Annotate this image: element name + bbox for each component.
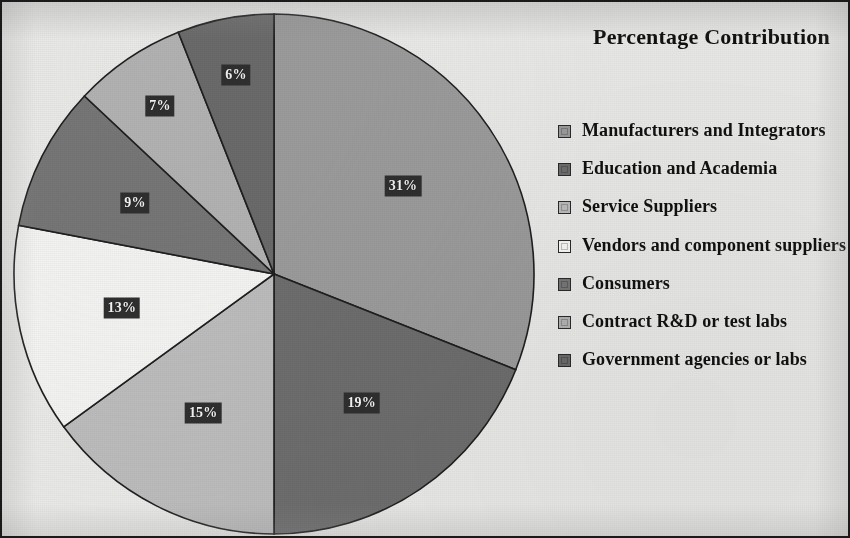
- legend-item[interactable]: Government agencies or labs: [558, 349, 846, 370]
- legend: Manufacturers and IntegratorsEducation a…: [558, 120, 846, 388]
- pie-slice-label: 13%: [103, 298, 140, 319]
- legend-swatch-icon: [558, 201, 571, 214]
- legend-item-label: Manufacturers and Integrators: [582, 120, 826, 141]
- pie-slices-group: [14, 14, 534, 534]
- pie-slice-label: 7%: [145, 96, 174, 117]
- legend-item-label: Contract R&D or test labs: [582, 311, 787, 332]
- legend-swatch-icon: [558, 278, 571, 291]
- pie-chart-svg: [2, 2, 547, 536]
- pie-slice-label: 6%: [221, 64, 250, 85]
- legend-swatch-icon: [558, 316, 571, 329]
- pie-slice-label: 31%: [385, 176, 422, 197]
- legend-swatch-icon: [558, 125, 571, 138]
- pie-slice-label: 15%: [185, 403, 222, 424]
- legend-item-label: Government agencies or labs: [582, 349, 807, 370]
- chart-title: Percentage Contribution: [593, 24, 830, 50]
- legend-item[interactable]: Vendors and component suppliers: [558, 235, 846, 256]
- legend-item[interactable]: Manufacturers and Integrators: [558, 120, 846, 141]
- legend-item[interactable]: Contract R&D or test labs: [558, 311, 846, 332]
- legend-swatch-icon: [558, 240, 571, 253]
- legend-item[interactable]: Consumers: [558, 273, 846, 294]
- legend-swatch-icon: [558, 354, 571, 367]
- legend-item-label: Education and Academia: [582, 158, 777, 179]
- pie-slice-label: 19%: [343, 393, 380, 414]
- legend-item-label: Consumers: [582, 273, 670, 294]
- legend-item[interactable]: Education and Academia: [558, 158, 846, 179]
- legend-item[interactable]: Service Suppliers: [558, 196, 846, 217]
- figure-container: 31%19%15%13%9%7%6% Percentage Contributi…: [0, 0, 850, 538]
- legend-swatch-icon: [558, 163, 571, 176]
- pie-slice-label: 9%: [120, 193, 149, 214]
- legend-item-label: Service Suppliers: [582, 196, 717, 217]
- legend-item-label: Vendors and component suppliers: [582, 235, 846, 256]
- pie-chart: 31%19%15%13%9%7%6%: [2, 2, 547, 536]
